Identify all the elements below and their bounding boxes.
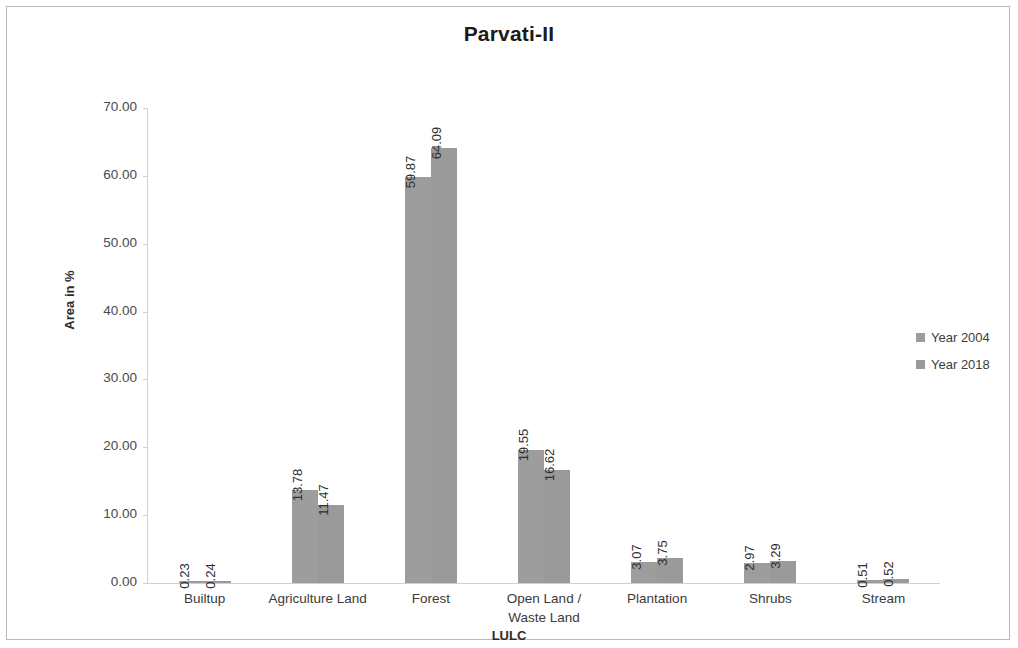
legend-label: Year 2018 xyxy=(931,357,990,372)
legend-item[interactable]: Year 2018 xyxy=(916,357,990,372)
x-axis-line xyxy=(147,583,940,584)
y-tick-label: 50.00 xyxy=(103,235,137,250)
bar-group: 3.073.75Plantation xyxy=(601,108,714,583)
bar-value-label: 0.24 xyxy=(203,563,218,588)
legend-swatch-icon xyxy=(916,333,925,342)
legend-item[interactable]: Year 2004 xyxy=(916,330,990,345)
x-axis-title: LULC xyxy=(0,628,1018,643)
bar-value-label: 0.52 xyxy=(881,562,896,587)
bar-group: 59.8764.09Forest xyxy=(374,108,487,583)
bar-pair: 59.8764.09 xyxy=(374,108,487,583)
y-tick-label: 30.00 xyxy=(103,370,137,385)
bar[interactable]: 0.52 xyxy=(883,579,909,583)
y-tick-label: 20.00 xyxy=(103,438,137,453)
bar[interactable]: 3.07 xyxy=(631,562,657,583)
bar-value-label: 0.23 xyxy=(177,563,192,588)
y-tick-label: 40.00 xyxy=(103,303,137,318)
chart-title: Parvati-II xyxy=(0,22,1018,46)
chart-page: Parvati-II Area in % LULC 0.0010.0020.00… xyxy=(0,0,1018,648)
y-tick-label: 0.00 xyxy=(111,574,137,589)
bar[interactable]: 16.62 xyxy=(544,470,570,583)
chart-legend: Year 2004Year 2018 xyxy=(916,330,990,372)
y-tick-label: 10.00 xyxy=(103,506,137,521)
y-tick-mark xyxy=(143,583,148,584)
legend-label: Year 2004 xyxy=(931,330,990,345)
x-tick-label-line: Waste Land xyxy=(478,608,610,627)
plot-area: 0.0010.0020.0030.0040.0050.0060.0070.00 … xyxy=(148,108,940,583)
bar[interactable]: 0.51 xyxy=(857,580,883,583)
bar-value-label: 59.87 xyxy=(403,155,418,188)
bar-value-label: 19.55 xyxy=(516,429,531,462)
bar-pair: 3.073.75 xyxy=(601,108,714,583)
bar-value-label: 3.75 xyxy=(655,540,670,565)
bar[interactable]: 0.23 xyxy=(179,581,205,583)
legend-swatch-icon xyxy=(916,360,925,369)
bar-value-label: 16.62 xyxy=(542,449,557,482)
bar-value-label: 2.97 xyxy=(742,545,757,570)
bar-group: 19.5516.62Open Land /Waste Land xyxy=(487,108,600,583)
y-axis-title: Area in % xyxy=(62,240,77,360)
y-tick-label: 70.00 xyxy=(103,99,137,114)
bar-value-label: 13.78 xyxy=(290,468,305,501)
bar-value-label: 3.07 xyxy=(629,545,644,570)
bar-pair: 0.230.24 xyxy=(148,108,261,583)
x-tick-label: Stream xyxy=(817,589,949,608)
bar[interactable]: 13.78 xyxy=(292,490,318,584)
bar-pair: 13.7811.47 xyxy=(261,108,374,583)
bar-pair: 19.5516.62 xyxy=(487,108,600,583)
bar-group: 2.973.29Shrubs xyxy=(714,108,827,583)
bar[interactable]: 64.09 xyxy=(431,148,457,583)
x-tick-label-line: Stream xyxy=(817,589,949,608)
bar[interactable]: 0.24 xyxy=(205,581,231,583)
bar[interactable]: 2.97 xyxy=(744,563,770,583)
bar-value-label: 11.47 xyxy=(316,484,331,516)
bar-group: 0.230.24Builtup xyxy=(148,108,261,583)
y-tick-label: 60.00 xyxy=(103,167,137,182)
bar-group: 13.7811.47Agriculture Land xyxy=(261,108,374,583)
bar[interactable]: 3.75 xyxy=(657,558,683,583)
bar-value-label: 64.09 xyxy=(429,127,444,160)
bar-pair: 2.973.29 xyxy=(714,108,827,583)
bar[interactable]: 19.55 xyxy=(518,450,544,583)
bar[interactable]: 11.47 xyxy=(318,505,344,583)
bar-value-label: 0.51 xyxy=(855,562,870,587)
bar-value-label: 3.29 xyxy=(768,543,783,568)
bar[interactable]: 3.29 xyxy=(770,561,796,583)
bar[interactable]: 59.87 xyxy=(405,177,431,583)
